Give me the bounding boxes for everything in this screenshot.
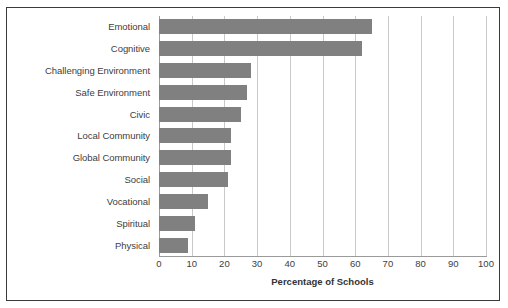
- plot-region: EmotionalCognitiveChallenging Environmen…: [7, 8, 501, 302]
- category-label: Cognitive: [7, 38, 155, 60]
- bar-row: [159, 103, 486, 125]
- category-label: Spiritual: [7, 212, 155, 234]
- bar: [159, 107, 241, 122]
- x-axis-line: [159, 256, 487, 257]
- chart-container: EmotionalCognitiveChallenging Environmen…: [6, 7, 500, 301]
- bar-row: [159, 234, 486, 256]
- bar-row: [159, 191, 486, 213]
- plot-area: [159, 16, 486, 256]
- category-label: Safe Environment: [7, 81, 155, 103]
- category-label: Emotional: [7, 16, 155, 38]
- x-tick-label: 60: [350, 258, 361, 269]
- bar-series: [159, 16, 486, 256]
- bar: [159, 19, 372, 34]
- x-tick-label: 40: [285, 258, 296, 269]
- bar: [159, 194, 208, 209]
- gridline: [486, 16, 487, 256]
- category-label: Challenging Environment: [7, 60, 155, 82]
- x-tick-label: 20: [219, 258, 230, 269]
- category-label: Vocational: [7, 191, 155, 213]
- x-tick-label: 70: [383, 258, 394, 269]
- bar-row: [159, 16, 486, 38]
- category-label: Local Community: [7, 125, 155, 147]
- bar: [159, 216, 195, 231]
- bar: [159, 128, 231, 143]
- bar-row: [159, 212, 486, 234]
- bar: [159, 150, 231, 165]
- category-label: Civic: [7, 103, 155, 125]
- category-label: Social: [7, 169, 155, 191]
- bar: [159, 85, 247, 100]
- category-label: Physical: [7, 234, 155, 256]
- bar: [159, 63, 251, 78]
- bar: [159, 172, 228, 187]
- x-axis-title: Percentage of Schools: [159, 276, 486, 287]
- x-tick-label: 90: [448, 258, 459, 269]
- bar-row: [159, 125, 486, 147]
- x-tick-label: 100: [478, 258, 494, 269]
- x-tick-label: 0: [156, 258, 161, 269]
- x-axis-tick-labels: 0102030405060708090100: [159, 258, 486, 274]
- bar-row: [159, 60, 486, 82]
- x-tick-label: 30: [252, 258, 263, 269]
- bar-row: [159, 38, 486, 60]
- bar: [159, 238, 188, 253]
- chart-title: [7, 0, 501, 8]
- x-tick-label: 80: [415, 258, 426, 269]
- bar-row: [159, 147, 486, 169]
- category-label: Global Community: [7, 147, 155, 169]
- category-axis-labels: EmotionalCognitiveChallenging Environmen…: [7, 16, 155, 256]
- x-tick-label: 10: [186, 258, 197, 269]
- bar-row: [159, 81, 486, 103]
- bar: [159, 41, 362, 56]
- bar-row: [159, 169, 486, 191]
- x-tick-label: 50: [317, 258, 328, 269]
